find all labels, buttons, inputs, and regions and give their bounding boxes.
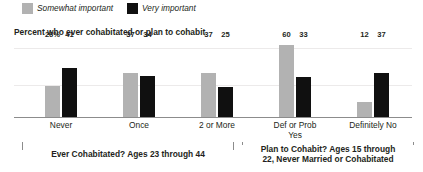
bar-rect	[296, 77, 311, 117]
x-axis-line	[14, 117, 412, 118]
annotation-text: Plan to Cohabit? Ages 15 through 22, Nev…	[242, 145, 414, 164]
x-axis-tick-labels: Never Once 2 or More Def or Prob Yes Def…	[14, 120, 412, 144]
bar-rect	[374, 73, 389, 117]
chart-legend: Somewhat important Very important	[22, 2, 196, 15]
bar-never-somewhat: 26%	[45, 40, 60, 117]
annotation-plan-to-cohabit: Plan to Cohabit? Ages 15 through 22, Nev…	[242, 142, 414, 168]
bar-defprobyes-very: 33	[296, 40, 311, 117]
bar-value-label: 25	[221, 31, 229, 39]
bar-group-definitely-no: 12 37	[348, 40, 398, 117]
bar-value-label: 60	[282, 31, 290, 39]
bar-value-label: 37	[126, 31, 134, 39]
legend-swatch-icon	[22, 3, 33, 14]
bar-value-label: 12	[360, 31, 368, 39]
x-tick-label-2-or-more: 2 or More	[182, 120, 252, 130]
bar-group-never: 26% 41	[36, 40, 86, 117]
bar-rect	[123, 73, 138, 117]
x-tick-label-once: Once	[104, 120, 174, 130]
legend-swatch-icon	[127, 3, 138, 14]
bar-value-label: 34	[143, 31, 151, 39]
bar-group-once: 37 34	[114, 40, 164, 117]
x-tick-label-never: Never	[26, 120, 96, 130]
bar-rect	[357, 102, 372, 117]
bar-rect	[62, 68, 77, 117]
bar-defprobyes-somewhat: 60	[279, 40, 294, 117]
bar-rect	[140, 76, 155, 117]
chart-subtitle: Percent who ever cohabitated or plan to …	[14, 27, 205, 37]
annotation-ever-cohabitated: Ever Cohabitated? Ages 23 through 44	[22, 142, 234, 168]
x-tick-label-definitely-no: Definitely No	[338, 120, 408, 130]
bar-value-label: 37	[204, 31, 212, 39]
bar-group-def-or-prob-yes: 60 33	[270, 40, 320, 117]
bar-definitelyno-somewhat: 12	[357, 40, 372, 117]
bar-rect	[218, 87, 233, 117]
bar-rect	[201, 73, 216, 117]
bar-value-label: 41	[65, 31, 73, 39]
x-tick-label-def-or-prob-yes: Def or Prob Yes	[260, 120, 330, 140]
bar-never-very: 41	[62, 40, 77, 117]
bar-definitelyno-very: 37	[374, 40, 389, 117]
legend-label: Somewhat important	[37, 3, 113, 14]
bracket-annotations: Ever Cohabitated? Ages 23 through 44 Pla…	[0, 142, 423, 172]
bar-2ormore-somewhat: 37	[201, 40, 216, 117]
plot-area: 26% 41 37 34 37 25	[14, 40, 412, 118]
bar-once-somewhat: 37	[123, 40, 138, 117]
legend-item-somewhat-important: Somewhat important	[22, 3, 113, 14]
annotation-text: Ever Cohabitated? Ages 23 through 44	[22, 150, 234, 160]
bar-rect	[279, 45, 294, 117]
bar-rect	[45, 86, 60, 117]
grouped-bar-chart: Somewhat important Very important Percen…	[0, 0, 423, 172]
legend-item-very-important: Very important	[127, 3, 196, 14]
bar-value-label: 33	[299, 31, 307, 39]
bar-value-label: 37	[377, 31, 385, 39]
bar-once-very: 34	[140, 40, 155, 117]
bar-group-2-or-more: 37 25	[192, 40, 242, 117]
legend-label: Very important	[142, 3, 196, 14]
bar-2ormore-very: 25	[218, 40, 233, 117]
bar-value-label: 26%	[45, 31, 60, 39]
